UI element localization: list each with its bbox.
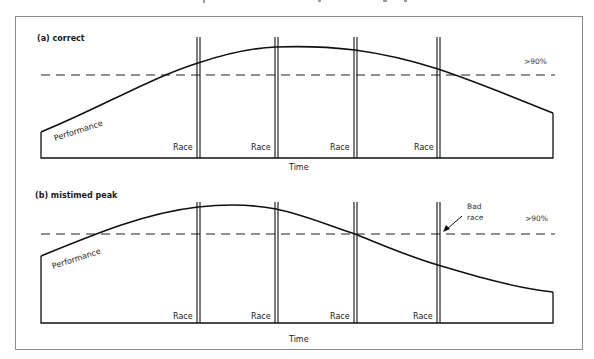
figure-frame bbox=[16, 17, 583, 350]
panel-b-race-label-1: Race bbox=[173, 312, 193, 321]
panel-a-axes bbox=[41, 113, 553, 158]
panel-a-x-axis-label: Time bbox=[288, 163, 309, 172]
panel-b-race-label-4: Race bbox=[413, 312, 433, 321]
panel-b-race-label-3: Race bbox=[330, 312, 350, 321]
panel-a: (a) correct >90% Performance Race Race R… bbox=[37, 34, 555, 172]
panel-a-race-label-4: Race bbox=[414, 143, 434, 152]
panel-b-race-bars bbox=[197, 202, 440, 323]
panel-a-race-label-2: Race bbox=[251, 143, 271, 152]
panel-a-race-label-1: Race bbox=[173, 143, 193, 152]
bad-race-arrow-icon bbox=[443, 225, 450, 232]
bad-race-label-line2: race bbox=[467, 213, 484, 222]
panel-a-title: (a) correct bbox=[37, 34, 85, 43]
panel-a-curve-label: Performance bbox=[53, 119, 104, 143]
bad-race-label-line1: Bad bbox=[467, 202, 482, 211]
panel-b-title: (b) mistimed peak bbox=[35, 191, 118, 200]
cropped-caption-fragments bbox=[203, 0, 407, 3]
panel-b-x-axis-label: Time bbox=[288, 335, 309, 344]
panel-b-curve-label: Performance bbox=[51, 247, 102, 271]
panel-a-performance-curve bbox=[41, 47, 553, 132]
bad-race-arrow-shaft bbox=[447, 216, 462, 229]
panel-b-threshold-label: >90% bbox=[525, 214, 548, 223]
panel-b: (b) mistimed peak >90% Performance Race … bbox=[35, 191, 555, 344]
periodization-figure: (a) correct >90% Performance Race Race R… bbox=[0, 0, 594, 359]
panel-b-axes bbox=[41, 256, 553, 323]
panel-a-race-label-3: Race bbox=[330, 143, 350, 152]
panel-b-race-label-2: Race bbox=[251, 312, 271, 321]
panel-a-threshold-label: >90% bbox=[524, 57, 547, 66]
panel-a-race-bars bbox=[197, 37, 440, 158]
